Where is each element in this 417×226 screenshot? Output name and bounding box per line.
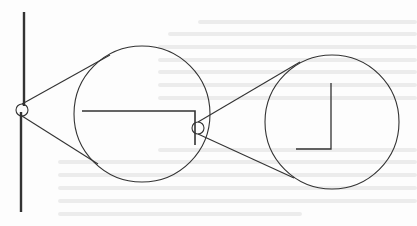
belt-1-upper xyxy=(22,55,110,104)
belt-1-lower xyxy=(22,116,98,164)
middle-pivot-pulley xyxy=(192,122,204,134)
belt-2-lower xyxy=(198,134,294,178)
arm-1 xyxy=(82,111,195,145)
pulley-diagram xyxy=(0,0,417,226)
arm-2 xyxy=(296,83,331,149)
wheel-2 xyxy=(265,55,399,189)
belt-2-upper xyxy=(198,62,300,122)
